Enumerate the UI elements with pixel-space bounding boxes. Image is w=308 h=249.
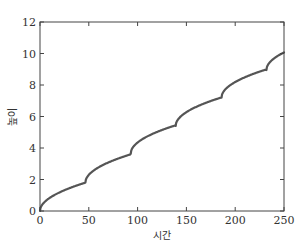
y-tick-label: 6 [29, 111, 36, 124]
x-axis-label: 시간 [153, 230, 171, 241]
height-curve [40, 52, 284, 211]
y-tick-label: 2 [29, 174, 36, 187]
line-chart: 050100150200250 024681012 시간 높이 [0, 0, 308, 249]
x-tick-label: 150 [176, 214, 197, 227]
x-tick-label: 50 [82, 214, 96, 227]
y-tick-label: 4 [29, 142, 36, 155]
y-axis-ticks: 024681012 [22, 16, 284, 218]
y-tick-label: 0 [29, 205, 36, 218]
x-tick-label: 100 [127, 214, 148, 227]
y-tick-label: 10 [22, 48, 36, 61]
x-tick-label: 0 [37, 214, 44, 227]
x-axis-ticks: 050100150200250 [37, 22, 295, 227]
y-tick-label: 8 [29, 79, 36, 92]
axes-frame [40, 22, 284, 211]
x-tick-label: 250 [274, 214, 295, 227]
y-axis-label: 높이 [7, 108, 18, 126]
x-tick-label: 200 [225, 214, 246, 227]
y-tick-label: 12 [22, 16, 36, 29]
